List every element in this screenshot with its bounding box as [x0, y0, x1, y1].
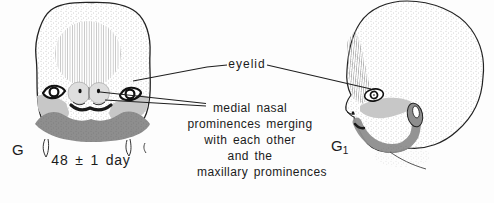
- age-label: 48 ± 1 day: [51, 152, 130, 168]
- annotation-line-4: and the: [150, 148, 350, 164]
- right-outer-neck-mark: [144, 143, 146, 153]
- annotation-block: medial nasal prominences merging with ea…: [150, 100, 350, 180]
- embryo-face-figure: eyelid medial nasal prominences merging …: [0, 0, 494, 203]
- right-view-letter-base: G: [331, 137, 343, 154]
- forehead-hatching: [55, 21, 121, 87]
- neck-stipple-shading: [374, 145, 430, 167]
- right-nostril: [97, 89, 100, 93]
- left-neck-fold: [43, 139, 48, 157]
- right-view-letter: G1: [331, 137, 348, 156]
- right-view-letter-subscript: 1: [343, 145, 349, 156]
- frontal-head-drawing: [35, 2, 150, 157]
- left-medial-nasal-prominence: [68, 82, 90, 104]
- annotation-line-1: medial nasal: [150, 100, 350, 116]
- annotation-line-2: prominences merging: [150, 116, 350, 132]
- lateral-head-drawing: [346, 1, 484, 169]
- annotation-line-5: maxillary prominences: [162, 164, 362, 180]
- left-nostril: [78, 89, 81, 93]
- left-view-letter: G: [12, 141, 24, 158]
- right-eye-iris: [126, 90, 135, 99]
- annotation-line-3: with each other: [150, 132, 350, 148]
- eyelid-label: eyelid: [228, 57, 265, 71]
- left-eye-iris: [50, 88, 59, 97]
